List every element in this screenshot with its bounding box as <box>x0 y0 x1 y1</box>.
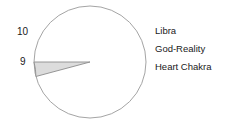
legend-item-libra: Libra <box>155 26 227 36</box>
legend-item-god-reality: God-Reality <box>155 44 227 54</box>
wedge-value-label-lower: 9 <box>20 57 26 67</box>
legend-item-heart-chakra: Heart Chakra <box>155 62 227 72</box>
legend: Libra God-Reality Heart Chakra <box>155 26 227 80</box>
chart-canvas: 10 9 Libra God-Reality Heart Chakra <box>0 0 228 128</box>
pie-wedge-highlight[interactable] <box>34 62 90 76</box>
wedge-value-label-upper: 10 <box>17 27 28 37</box>
